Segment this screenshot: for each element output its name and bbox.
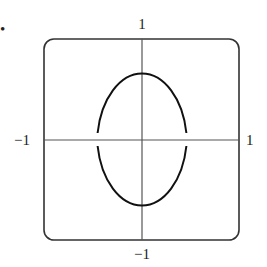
tick-label-left: −1: [14, 132, 30, 148]
tick-label-bottom: −1: [134, 246, 150, 262]
plot: • 1 −1 −1 1: [0, 0, 267, 267]
tick-label-top: 1: [138, 16, 146, 32]
bullet-marker: •: [0, 21, 5, 37]
tick-label-right: 1: [246, 132, 254, 148]
